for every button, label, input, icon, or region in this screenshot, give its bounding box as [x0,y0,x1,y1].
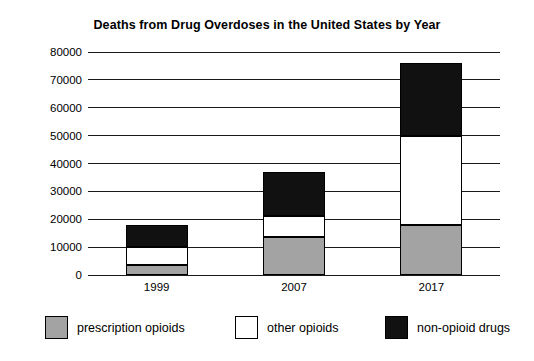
legend-item-non-opioid-drugs: non-opioid drugs [385,316,510,339]
bar-segment-prescription-1999 [126,265,188,275]
legend-label: prescription opioids [77,321,185,335]
bar-segment-other-2007 [263,216,325,237]
x-axis-tick-label-2017: 2017 [419,281,445,293]
bar-segment-nonopioid-2017 [400,63,462,135]
y-axis-tick-label: 80000 [20,46,82,58]
y-axis-tick-label: 40000 [20,158,82,170]
legend-swatch-icon [235,316,258,339]
legend-swatch-icon [385,316,408,339]
bar-stack-1999 [126,52,188,275]
y-axis-tick-label: 10000 [20,241,82,253]
bar-segment-other-1999 [126,247,188,265]
legend-item-prescription-opioids: prescription opioids [45,316,185,339]
chart-legend: prescription opioidsother opioidsnon-opi… [0,316,534,348]
y-axis-tick-label: 20000 [20,213,82,225]
bar-segment-other-2017 [400,136,462,225]
bar-segment-nonopioid-1999 [126,225,188,247]
plot-area [88,52,500,275]
legend-label: non-opioid drugs [417,321,510,335]
x-axis-tick-label-1999: 1999 [144,281,170,293]
y-axis-tick-label: 50000 [20,130,82,142]
chart-title: Deaths from Drug Overdoses in the United… [0,18,534,32]
y-axis: 0100002000030000400005000060000700008000… [12,52,82,275]
x-axis-tick-label-2007: 2007 [281,281,307,293]
x-axis: 199920072017 [88,281,500,301]
legend-swatch-icon [45,316,68,339]
legend-label: other opioids [267,321,339,335]
y-axis-tick-label: 0 [20,269,82,281]
y-axis-tick-label: 70000 [20,74,82,86]
legend-item-other-opioids: other opioids [235,316,339,339]
bar-stack-2017 [400,52,462,275]
bar-segment-nonopioid-2007 [263,172,325,217]
y-axis-tick-label: 60000 [20,102,82,114]
y-axis-tick-label: 30000 [20,185,82,197]
bar-segment-prescription-2007 [263,237,325,275]
bar-stack-2007 [263,52,325,275]
chart-figure: Deaths from Drug Overdoses in the United… [0,0,534,361]
bar-segment-prescription-2017 [400,225,462,275]
